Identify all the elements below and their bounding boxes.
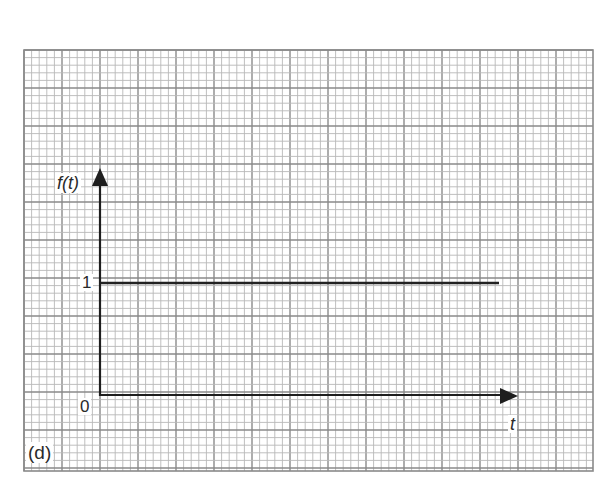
figure-panel-d: f(t) 1 0 t (d) [0,0,613,504]
panel-label: (d) [26,442,53,463]
graph-paper-plot [0,0,613,504]
x-axis-arrow-icon [500,388,518,404]
y-tick-label-1: 1 [80,274,93,291]
y-tick-label-0: 0 [78,398,91,415]
y-axis-label: f(t) [55,173,81,193]
grid-border [24,50,593,471]
y-axis-arrow-icon [92,168,108,186]
x-axis-label: t [508,415,517,433]
grid-lines [24,50,593,471]
